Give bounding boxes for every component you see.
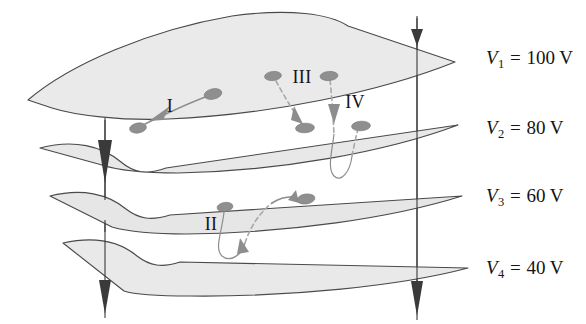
- equipotential-surface-3: [50, 192, 462, 234]
- path-label-IV: IV: [345, 92, 365, 112]
- voltage-symbol-v2: V: [486, 117, 498, 138]
- voltage-subscript-v4: 4: [498, 267, 505, 281]
- voltage-equals-v4: =: [509, 257, 522, 278]
- voltage-equals-v2: =: [509, 117, 522, 138]
- path-IV-arrowhead: [328, 104, 340, 124]
- voltage-subscript-v1: 1: [498, 57, 505, 71]
- voltage-label-v3: V3 = 60 V: [486, 186, 564, 209]
- path-label-III: III: [293, 67, 312, 87]
- equipotential-surfaces-figure: I II III IV: [0, 0, 586, 324]
- voltage-value-v4: 40 V: [526, 257, 563, 278]
- path-label-I: I: [167, 96, 173, 116]
- voltage-value-v3: 60 V: [526, 185, 563, 206]
- charge-path-IV-end: [351, 121, 371, 132]
- path-II-arrowhead-loop: [237, 238, 249, 254]
- voltage-subscript-v3: 3: [498, 195, 505, 209]
- voltage-label-v4: V4 = 40 V: [486, 258, 564, 281]
- voltage-value-v1: 100 V: [526, 47, 573, 68]
- field-line-right-arrowhead-upper: [411, 29, 423, 46]
- voltage-value-v2: 80 V: [526, 117, 563, 138]
- voltage-symbol-v4: V: [486, 257, 498, 278]
- surface-3-polygon: [50, 192, 462, 234]
- voltage-label-v2: V2 = 80 V: [486, 118, 564, 141]
- field-line-left-arrowhead-lower: [99, 280, 111, 314]
- field-line-right-arrowhead-lower: [411, 281, 423, 316]
- surface-4-polygon: [63, 240, 468, 296]
- voltage-symbol-v1: V: [486, 47, 498, 68]
- voltage-equals-v1: =: [509, 47, 522, 68]
- voltage-subscript-v2: 2: [498, 127, 505, 141]
- equipotential-surface-4: [63, 240, 468, 296]
- voltage-label-v1: V1 = 100 V: [486, 48, 573, 71]
- path-label-II: II: [205, 214, 218, 234]
- voltage-symbol-v3: V: [486, 185, 498, 206]
- charge-path-II-end: [296, 193, 315, 205]
- surface-1-polygon: [28, 12, 455, 119]
- equipotential-surface-1: [28, 12, 455, 119]
- voltage-equals-v3: =: [509, 185, 522, 206]
- charge-path-III-end: [295, 123, 315, 134]
